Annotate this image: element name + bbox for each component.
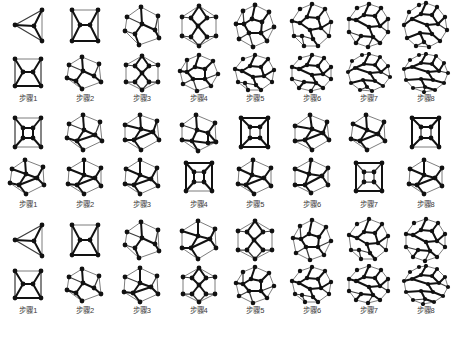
graph-row-1-1 xyxy=(0,0,454,52)
graph-diagram xyxy=(115,0,169,52)
graph-cell-b3r2c7 xyxy=(341,264,398,306)
step-label-1: 步骤1 xyxy=(0,306,57,316)
step-label-2: 步骤2 xyxy=(57,94,114,104)
graph-diagram xyxy=(228,110,282,156)
step-label-1: 步骤1 xyxy=(0,94,57,104)
graph-diagram xyxy=(172,156,226,200)
graph-cell-b3r2c2 xyxy=(57,264,114,306)
graph-diagram xyxy=(285,216,339,264)
graph-diagram xyxy=(285,264,339,306)
graph-diagram xyxy=(58,52,112,94)
graph-diagram xyxy=(285,52,339,94)
graph-diagram xyxy=(399,110,453,156)
step-label-4: 步骤4 xyxy=(170,306,227,316)
step-label-2: 步骤2 xyxy=(57,200,114,210)
graph-cell-b3r2c3 xyxy=(114,264,171,306)
graph-cell-b2r1c7 xyxy=(341,110,398,156)
graph-cell-b2r2c1 xyxy=(0,156,57,200)
graph-diagram xyxy=(172,52,226,94)
graph-cell-b1r2c6 xyxy=(284,52,341,94)
graph-cell-b3r1c4 xyxy=(170,216,227,264)
graph-diagram xyxy=(172,110,226,156)
graph-diagram xyxy=(58,264,112,306)
step-label-7: 步骤7 xyxy=(341,94,398,104)
step-label-8: 步骤8 xyxy=(397,306,454,316)
graph-diagram xyxy=(342,216,396,264)
step-label-row-2: 步骤1 步骤2 步骤3 步骤4 步骤5 步骤6 步骤7 步骤8 xyxy=(0,200,454,210)
step-label-7: 步骤7 xyxy=(341,306,398,316)
graph-diagram xyxy=(115,156,169,200)
graph-diagram xyxy=(115,110,169,156)
graph-diagram xyxy=(285,110,339,156)
graph-cell-b1r2c3 xyxy=(114,52,171,94)
graph-cell-b2r2c2 xyxy=(57,156,114,200)
graph-cell-b3r2c8 xyxy=(397,264,454,306)
graph-cell-b3r1c2 xyxy=(57,216,114,264)
graph-cell-b2r2c4 xyxy=(170,156,227,200)
graph-diagram xyxy=(58,156,112,200)
step-label-7: 步骤7 xyxy=(341,200,398,210)
graph-diagram xyxy=(342,0,396,52)
graph-cell-b1r1c2 xyxy=(57,0,114,52)
graph-block-3: 步骤1 步骤2 步骤3 步骤4 步骤5 步骤6 步骤7 步骤8 xyxy=(0,216,454,316)
graph-cell-b1r1c4 xyxy=(170,0,227,52)
graph-cell-b2r1c2 xyxy=(57,110,114,156)
graph-diagram xyxy=(228,216,282,264)
step-label-3: 步骤3 xyxy=(114,94,171,104)
graph-row-3-2 xyxy=(0,264,454,306)
step-label-2: 步骤2 xyxy=(57,306,114,316)
graph-cell-b2r1c6 xyxy=(284,110,341,156)
graph-cell-b2r2c3 xyxy=(114,156,171,200)
graph-cell-b2r2c6 xyxy=(284,156,341,200)
graph-cell-b3r2c6 xyxy=(284,264,341,306)
graph-diagram xyxy=(399,0,453,52)
graph-diagram xyxy=(172,216,226,264)
graph-diagram xyxy=(342,110,396,156)
graph-diagram xyxy=(172,0,226,52)
graph-cell-b1r2c5 xyxy=(227,52,284,94)
graph-cell-b3r1c8 xyxy=(397,216,454,264)
graph-diagram xyxy=(228,0,282,52)
graph-diagram xyxy=(285,156,339,200)
graph-cell-b2r1c8 xyxy=(397,110,454,156)
graph-diagram xyxy=(1,52,55,94)
graph-cell-b3r1c6 xyxy=(284,216,341,264)
graph-diagram xyxy=(1,110,55,156)
graph-diagram xyxy=(228,264,282,306)
graph-cell-b1r1c6 xyxy=(284,0,341,52)
graph-cell-b3r2c5 xyxy=(227,264,284,306)
graph-cell-b1r1c3 xyxy=(114,0,171,52)
graph-row-2-1 xyxy=(0,110,454,156)
graph-diagram xyxy=(342,52,396,94)
graph-diagram xyxy=(115,264,169,306)
graph-cell-b1r1c7 xyxy=(341,0,398,52)
graph-diagram xyxy=(115,216,169,264)
graph-diagram xyxy=(58,0,112,52)
graph-diagram xyxy=(399,216,453,264)
graph-cell-b3r1c1 xyxy=(0,216,57,264)
step-label-3: 步骤3 xyxy=(114,306,171,316)
graph-diagram xyxy=(399,52,453,94)
graph-diagram xyxy=(1,156,55,200)
step-label-row-1: 步骤1 步骤2 步骤3 步骤4 步骤5 步骤6 步骤7 步骤8 xyxy=(0,94,454,104)
graph-cell-b2r1c5 xyxy=(227,110,284,156)
graph-cell-b2r1c4 xyxy=(170,110,227,156)
graph-diagram xyxy=(1,264,55,306)
graph-cell-b3r2c1 xyxy=(0,264,57,306)
step-label-8: 步骤8 xyxy=(397,200,454,210)
step-label-4: 步骤4 xyxy=(170,200,227,210)
graph-cell-b1r1c8 xyxy=(397,0,454,52)
step-label-1: 步骤1 xyxy=(0,200,57,210)
graph-cell-b1r1c5 xyxy=(227,0,284,52)
graph-cell-b1r1c1 xyxy=(0,0,57,52)
step-label-3: 步骤3 xyxy=(114,200,171,210)
step-label-row-3: 步骤1 步骤2 步骤3 步骤4 步骤5 步骤6 步骤7 步骤8 xyxy=(0,306,454,316)
step-label-4: 步骤4 xyxy=(170,94,227,104)
graph-block-1: 步骤1 步骤2 步骤3 步骤4 步骤5 步骤6 步骤7 步骤8 xyxy=(0,0,454,104)
graph-diagram xyxy=(399,156,453,200)
graph-diagram xyxy=(1,0,55,52)
graph-diagram xyxy=(1,216,55,264)
graph-cell-b2r2c8 xyxy=(397,156,454,200)
graph-row-2-2 xyxy=(0,156,454,200)
graph-cell-b1r2c2 xyxy=(57,52,114,94)
